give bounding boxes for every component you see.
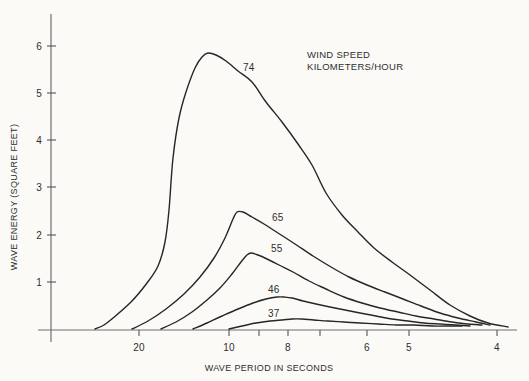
y-tick-label-4: 4 [28,135,42,146]
y-tick-label-5: 5 [28,88,42,99]
curve-65 [132,211,490,329]
curve-46 [193,297,470,329]
series-label-65: 65 [272,212,284,223]
legend-line-units: KILOMETERS/HOUR [307,61,403,73]
x-axis-title: WAVE PERIOD IN SECONDS [205,363,334,373]
x-tick-label-10: 10 [223,342,235,353]
series-label-46: 46 [268,284,280,295]
y-tick-label-1: 1 [28,277,42,288]
x-tick-label-4: 4 [494,342,500,353]
series-label-37: 37 [268,308,280,319]
y-tick-label-6: 6 [28,41,42,52]
x-tick-label-20: 20 [133,342,145,353]
legend-line-wind-speed: WIND SPEED [307,49,403,61]
x-tick-label-8: 8 [285,342,291,353]
x-tick-label-5: 5 [406,342,412,353]
y-axis-title: WAVE ENERGY (SQUARE FEET) [9,124,19,271]
y-tick-label-3: 3 [28,182,42,193]
series-label-74: 74 [243,62,255,73]
legend: WIND SPEED KILOMETERS/HOUR [307,49,403,72]
plot-area [0,0,529,381]
curve-74 [95,53,508,329]
x-tick-label-6: 6 [364,342,370,353]
y-tick-label-2: 2 [28,230,42,241]
series-label-55: 55 [271,243,283,254]
wave-energy-spectrum-chart: WAVE ENERGY (SQUARE FEET) WAVE PERIOD IN… [0,0,529,381]
